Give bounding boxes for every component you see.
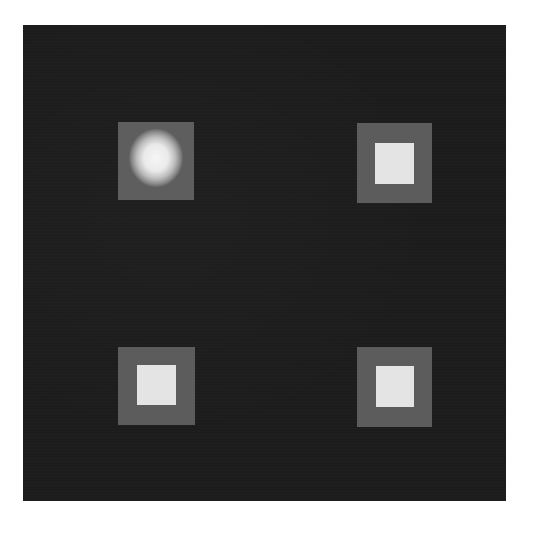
patch-bottom-left-inner-square xyxy=(137,365,176,405)
patch-bottom-right-inner-square xyxy=(376,366,414,407)
patch-bottom-left xyxy=(118,347,195,425)
patch-top-right-inner-square xyxy=(375,143,414,184)
patch-bottom-right xyxy=(357,347,432,427)
patch-top-left-blurred xyxy=(118,122,194,200)
dark-panel xyxy=(23,25,506,501)
patch-top-right xyxy=(357,123,432,203)
